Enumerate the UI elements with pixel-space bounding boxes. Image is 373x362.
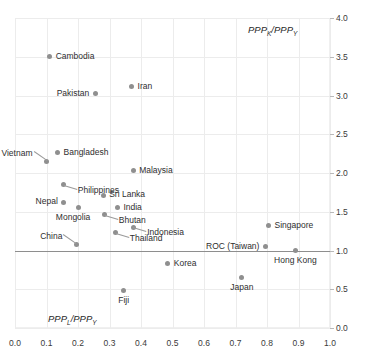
data-point-label: Fiji	[118, 296, 129, 305]
y-tick-mark	[330, 18, 334, 19]
scatter-chart: 0.00.10.20.30.40.50.60.70.80.91.0 0.00.5…	[0, 0, 373, 362]
y-tick-mark	[330, 289, 334, 290]
data-point-label: Vietnam	[1, 149, 32, 158]
gridline-horizontal	[15, 328, 330, 329]
y-tick-mark	[330, 57, 334, 58]
x-axis-title: PPPL/PPPY	[48, 313, 97, 326]
y-tick-label: 1.5	[336, 207, 362, 217]
x-tick-label: 0.8	[252, 338, 282, 348]
gridline-horizontal	[15, 18, 330, 19]
x-tick-label: 0.0	[0, 338, 30, 348]
y-tick-mark	[330, 212, 334, 213]
y-tick-mark	[330, 173, 334, 174]
x-tick-label: 0.7	[221, 338, 251, 348]
reference-line-unity	[15, 251, 330, 252]
y-tick-mark	[330, 251, 334, 252]
gridline-horizontal	[15, 289, 330, 290]
x-tick-label: 0.1	[32, 338, 62, 348]
gridline-horizontal	[15, 134, 330, 135]
data-point-label: Bhutan	[119, 216, 146, 225]
data-point-label: Malaysia	[139, 166, 173, 175]
y-tick-label: 0.0	[336, 323, 362, 333]
data-point-label: Singapore	[275, 221, 314, 230]
data-point-label: Mongolia	[56, 213, 91, 222]
y-tick-label: 2.5	[336, 129, 362, 139]
data-point-marker	[76, 205, 81, 210]
data-point-label: Sri Lanka	[109, 190, 145, 199]
y-tick-label: 1.0	[336, 246, 362, 256]
data-point-label: Thailand	[130, 234, 163, 243]
data-point-label: ROC (Taiwan)	[206, 242, 259, 251]
y-tick-label: 3.0	[336, 91, 362, 101]
data-point-label: Nepal	[36, 197, 58, 206]
y-tick-label: 4.0	[336, 13, 362, 23]
x-tick-label: 0.5	[158, 338, 188, 348]
x-tick-label: 0.6	[189, 338, 219, 348]
data-point-label: Korea	[174, 259, 197, 268]
data-point-label: China	[40, 232, 62, 241]
data-point-label: Japan	[230, 283, 253, 292]
y-tick-mark	[330, 328, 334, 329]
y-tick-label: 2.0	[336, 168, 362, 178]
x-tick-label: 0.4	[126, 338, 156, 348]
data-point-label: Hong Kong	[274, 256, 317, 265]
y-tick-mark	[330, 96, 334, 97]
data-point-label: Bangladesh	[64, 148, 109, 157]
x-tick-label: 1.0	[315, 338, 345, 348]
y-tick-label: 3.5	[336, 52, 362, 62]
x-tick-label: 0.9	[284, 338, 314, 348]
x-tick-label: 0.2	[63, 338, 93, 348]
data-point-marker	[131, 168, 136, 173]
y-tick-mark	[330, 134, 334, 135]
data-point-label: India	[123, 203, 141, 212]
data-point-label: Cambodia	[56, 52, 95, 61]
data-point-label: Iran	[138, 82, 153, 91]
data-point-label: Pakistan	[57, 89, 90, 98]
data-point-marker	[101, 193, 106, 198]
y-axis-title: PPPK/PPPY	[248, 24, 297, 37]
x-tick-label: 0.3	[95, 338, 125, 348]
data-point-marker	[293, 248, 298, 253]
y-tick-label: 0.5	[336, 284, 362, 294]
